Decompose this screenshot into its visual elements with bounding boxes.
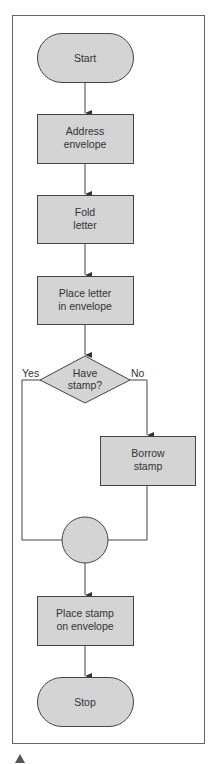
borrow-to-join-line (108, 485, 147, 540)
final-step-label-line1: Place stamp (56, 607, 114, 619)
triangle-marker-icon (15, 754, 25, 763)
branch-label-line1: Borrow (131, 447, 165, 459)
stop-terminal: Stop (38, 678, 134, 727)
no-branch-arrow (130, 380, 147, 435)
branch-label-line2: stamp (134, 460, 163, 472)
step-label-line2: envelope (64, 138, 107, 150)
no-label: No (131, 367, 145, 379)
step-label-line1: Fold (75, 206, 96, 218)
step-place-stamp: Place stamp on envelope (38, 597, 134, 646)
step-label-line2: in envelope (58, 300, 112, 312)
decision-label-line2: stamp? (68, 379, 103, 391)
yes-label: Yes (22, 367, 39, 379)
join-connector-circle (62, 517, 108, 563)
step-address-envelope: Address envelope (38, 115, 134, 164)
step-place-letter: Place letter in envelope (38, 277, 134, 325)
stop-label: Stop (74, 696, 96, 708)
step-fold-letter: Fold letter (38, 196, 134, 244)
yes-branch-line (22, 380, 62, 540)
final-step-label-line2: on envelope (56, 620, 113, 632)
step-label-line1: Address (66, 125, 105, 137)
step-label-line1: Place letter (59, 287, 112, 299)
decision-label-line1: Have (73, 367, 98, 379)
decision-have-stamp: Have stamp? Yes No (22, 356, 145, 403)
flowchart-diagram: Start Address envelope Fold letter Place… (0, 0, 215, 764)
step-borrow-stamp: Borrow stamp (101, 437, 196, 486)
start-terminal: Start (38, 34, 134, 83)
step-label-line2: letter (73, 219, 97, 231)
start-label: Start (74, 52, 96, 64)
